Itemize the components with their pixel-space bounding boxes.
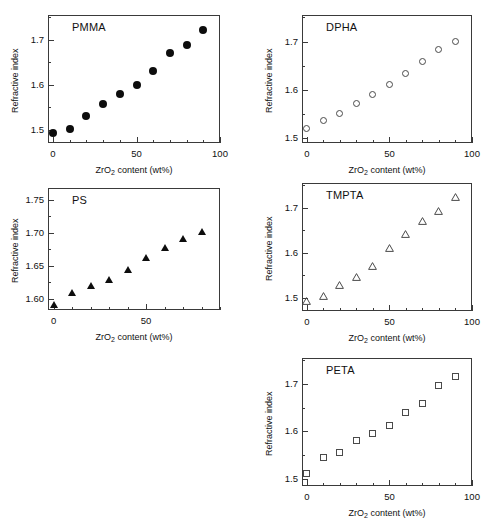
data-point-marker	[434, 207, 443, 215]
data-point-marker	[99, 100, 107, 108]
data-point-marker	[87, 282, 95, 289]
y-axis-tick-label: 1.6	[18, 79, 44, 90]
x-axis-tick	[422, 483, 423, 486]
x-axis-tick	[307, 305, 308, 311]
x-axis-tick	[373, 483, 374, 486]
x-axis-tick	[406, 483, 407, 486]
x-axis-tick	[170, 140, 171, 143]
data-point-marker	[68, 289, 76, 296]
x-axis-tick	[86, 140, 87, 143]
y-axis-label: Refractive index	[10, 218, 20, 283]
x-axis-tick-label: 0	[41, 148, 65, 159]
x-axis-tick	[439, 483, 440, 486]
y-axis-tick	[302, 360, 305, 361]
x-axis-tick	[137, 137, 138, 143]
y-axis-tick	[48, 17, 51, 18]
data-point-marker	[66, 125, 74, 133]
x-axis-tick	[109, 307, 110, 310]
y-axis-tick-label: 1.5	[272, 473, 298, 484]
plot-frame	[302, 15, 472, 143]
x-axis-tick	[439, 308, 440, 311]
panel-title: PS	[72, 194, 87, 206]
y-axis-tick	[302, 275, 305, 276]
y-axis-tick	[48, 249, 51, 250]
y-axis-tick	[48, 85, 54, 86]
data-point-marker	[386, 422, 393, 429]
data-point-marker	[302, 297, 311, 305]
x-axis-tick	[422, 308, 423, 311]
y-axis-tick	[302, 455, 305, 456]
x-axis-tick-label: 50	[377, 491, 401, 502]
data-point-marker	[179, 235, 187, 242]
y-axis-tick	[302, 253, 308, 254]
data-point-marker	[386, 81, 393, 88]
y-axis-tick	[302, 431, 308, 432]
x-axis-tick	[220, 307, 221, 310]
x-axis-tick-label: 100	[460, 148, 484, 159]
y-axis-tick-label: 1.65	[18, 260, 44, 271]
y-axis-label: Refractive index	[10, 48, 20, 113]
y-axis-tick-label: 1.7	[18, 34, 44, 45]
y-axis-tick	[302, 114, 305, 115]
x-axis-tick-label: 50	[377, 316, 401, 327]
x-axis-tick-label: 50	[377, 148, 401, 159]
data-point-marker	[320, 117, 327, 124]
x-axis-tick	[455, 483, 456, 486]
data-point-marker	[385, 244, 394, 252]
x-axis-tick	[455, 140, 456, 143]
y-axis-tick	[302, 185, 305, 186]
panel-title: PMMA	[72, 21, 106, 33]
x-axis-tick-label: 100	[460, 491, 484, 502]
x-axis-tick	[53, 137, 54, 143]
y-axis-tick-label: 1.5	[272, 292, 298, 303]
data-point-marker	[335, 281, 344, 289]
data-point-marker	[161, 244, 169, 251]
y-axis-tick-label: 1.5	[272, 132, 298, 143]
y-axis-tick	[48, 266, 54, 267]
data-point-marker	[142, 254, 150, 261]
data-point-marker	[183, 41, 191, 49]
x-axis-tick	[406, 308, 407, 311]
data-point-marker	[419, 400, 426, 407]
y-axis-tick-label: 1.75	[18, 194, 44, 205]
x-axis-label: ZrO2 content (wt%)	[302, 508, 472, 518]
data-point-marker	[452, 38, 459, 45]
x-axis-tick	[153, 140, 154, 143]
data-point-marker	[402, 409, 409, 416]
x-axis-tick-label: 100	[460, 316, 484, 327]
x-axis-tick	[70, 140, 71, 143]
data-point-marker	[353, 437, 360, 444]
y-axis-tick	[302, 408, 305, 409]
x-axis-tick	[472, 137, 473, 143]
x-axis-tick-label: 0	[295, 491, 319, 502]
x-axis-label: ZrO2 content (wt%)	[302, 165, 472, 175]
plot-frame	[48, 15, 220, 143]
y-axis-tick	[48, 282, 51, 283]
x-axis-tick	[165, 307, 166, 310]
x-axis-tick-label: 0	[42, 315, 66, 326]
x-axis-tick	[323, 140, 324, 143]
x-axis-tick-label: 0	[295, 148, 319, 159]
y-axis-tick	[302, 384, 308, 385]
data-point-marker	[452, 373, 459, 380]
y-axis-tick	[302, 208, 308, 209]
x-axis-tick	[128, 307, 129, 310]
x-axis-tick	[91, 307, 92, 310]
data-point-marker	[124, 266, 132, 273]
y-axis-tick	[48, 107, 51, 108]
y-axis-tick-label: 1.70	[18, 227, 44, 238]
panel-title: DPHA	[326, 21, 357, 33]
x-axis-tick	[373, 140, 374, 143]
y-axis-tick-label: 1.5	[18, 124, 44, 135]
y-axis-tick	[302, 42, 308, 43]
x-axis-tick	[340, 308, 341, 311]
x-axis-tick	[389, 480, 390, 486]
x-axis-label: ZrO2 content (wt%)	[48, 332, 220, 342]
data-point-marker	[303, 125, 310, 132]
x-axis-tick-label: 100	[208, 148, 232, 159]
y-axis-tick-label: 1.7	[272, 36, 298, 47]
y-axis-tick-label: 1.7	[272, 202, 298, 213]
data-point-marker	[451, 193, 460, 201]
x-axis-tick	[356, 140, 357, 143]
data-point-marker	[149, 67, 157, 75]
